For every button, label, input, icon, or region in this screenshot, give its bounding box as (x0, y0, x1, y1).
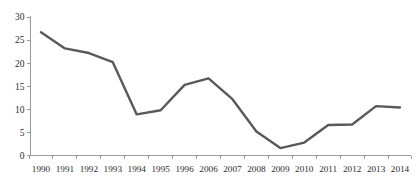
series-line-1 (41, 32, 400, 148)
series-group (41, 32, 400, 148)
x-tick-label: 1995 (151, 164, 170, 174)
y-tick-label: 10 (15, 105, 25, 115)
x-tick-label: 2008 (247, 164, 266, 174)
x-tick-label: 2012 (343, 164, 362, 174)
y-tick-label: 0 (20, 151, 25, 161)
chart-canvas: 051015202530 199019911992199319941995199… (0, 0, 420, 187)
y-tick-label: 15 (15, 82, 25, 92)
x-tick-label: 2014 (391, 164, 410, 174)
x-tick-label: 1996 (175, 164, 194, 174)
x-tick-label: 2007 (223, 164, 242, 174)
y-tick-label: 5 (20, 128, 25, 138)
y-axis-group: 051015202530 (15, 12, 31, 161)
x-tick-labels: 1990199119921993199419951996200620072008… (32, 164, 410, 174)
x-tick-label: 2011 (319, 164, 337, 174)
x-tick-label: 2009 (271, 164, 290, 174)
x-tick-label: 1992 (80, 164, 99, 174)
y-tick-label: 20 (15, 59, 25, 69)
x-tick-label: 1990 (32, 164, 51, 174)
x-axis-group: 1990199119921993199419951996200620072008… (29, 156, 412, 174)
x-tick-label: 1991 (56, 164, 75, 174)
y-tick-marks (27, 17, 31, 156)
x-tick-label: 1994 (128, 164, 147, 174)
y-tick-label: 30 (15, 12, 25, 22)
y-tick-labels: 051015202530 (15, 12, 25, 161)
y-tick-label: 25 (15, 35, 25, 45)
x-tick-label: 2006 (199, 164, 218, 174)
x-tick-label: 2010 (295, 164, 314, 174)
line-chart: 051015202530 199019911992199319941995199… (0, 0, 420, 187)
x-tick-label: 2013 (367, 164, 386, 174)
x-tick-label: 1993 (104, 164, 123, 174)
x-tick-marks (29, 156, 412, 160)
